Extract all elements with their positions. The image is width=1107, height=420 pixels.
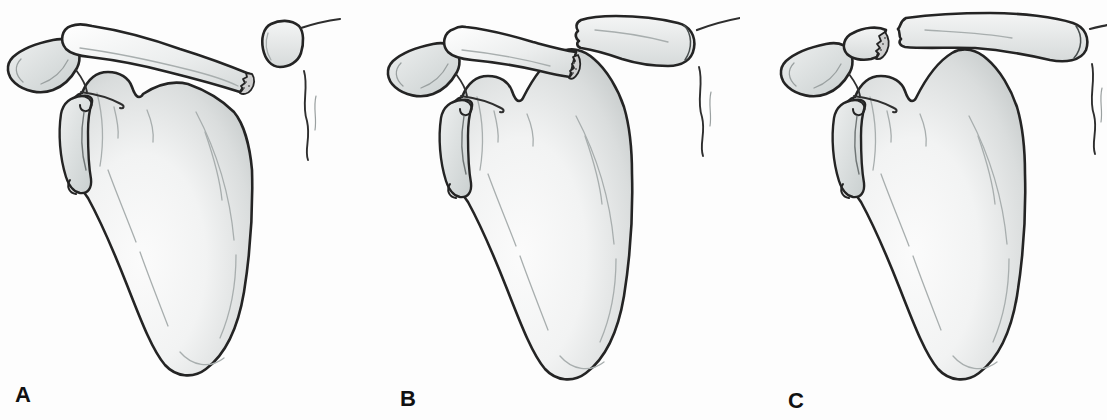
sternum-outline — [301, 19, 340, 160]
sternum-outline — [1090, 25, 1107, 154]
panel-label-a: A — [15, 382, 31, 408]
panel-label-b: B — [400, 386, 416, 412]
panel-b-illustration — [370, 0, 740, 420]
clavicle-medial-fragment — [898, 13, 1087, 61]
sternum-outline — [697, 18, 740, 156]
panel-a-illustration — [0, 0, 370, 420]
clavicle-medial-stub — [262, 21, 303, 67]
clavicle-lateral-fragment — [444, 27, 576, 77]
panel-b: B — [370, 0, 740, 420]
panel-label-c: C — [788, 388, 804, 414]
panel-c-illustration — [740, 0, 1107, 420]
clavicle-fracture-figure: A B — [0, 0, 1107, 420]
panel-c: C — [740, 0, 1107, 420]
clavicle — [444, 16, 694, 79]
panel-a: A — [0, 0, 370, 420]
